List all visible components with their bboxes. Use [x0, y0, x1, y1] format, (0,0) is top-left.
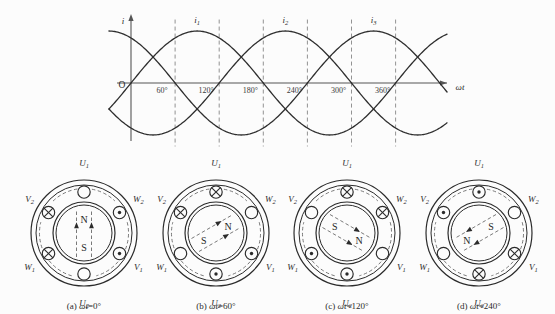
rotor-pole-north-label: N [356, 235, 363, 246]
slot-U1 [341, 186, 353, 198]
stator-inner-shell-circle [299, 185, 395, 281]
field-direction-arrow-0 [215, 219, 223, 226]
slot-label-V1: V1 [134, 262, 143, 273]
slot-W2 [508, 206, 520, 218]
series-label-i2: i2 [282, 15, 289, 26]
diagram-caption-d: (d) ωt=240° [457, 301, 501, 311]
field-direction-arrow-1 [89, 222, 94, 228]
slot-label-U1: U1 [474, 158, 484, 169]
rotor-pole-south-label: S [488, 221, 494, 232]
motor-diagram-d: U1W2V1U2W1V2NS(d) ωt=240° [419, 158, 539, 311]
slot-label-W1: W1 [419, 262, 430, 273]
field-direction-arrow-1 [465, 227, 473, 234]
slot-label-V1: V1 [529, 262, 538, 273]
motor-diagram-a: U1W2V1U2W1V2NS(a) ωt=0° [24, 158, 144, 311]
slot-U1 [78, 186, 90, 198]
slot-V1 [376, 247, 388, 259]
slot-label-W2: W2 [133, 194, 145, 205]
diagram-caption-b: (b) ωt=60° [196, 301, 236, 311]
rotor-circle [319, 205, 375, 261]
stator-bore-circle [316, 202, 378, 264]
field-direction-arrow-0 [354, 227, 362, 234]
rotor-pole-south-label: S [332, 221, 338, 232]
slot-U2 [78, 268, 90, 280]
origin-label: O [119, 80, 126, 90]
slot-V2 [305, 206, 317, 218]
slot-W1 [42, 247, 54, 259]
current-out-dot-icon [477, 190, 480, 193]
current-out-dot-icon [214, 272, 217, 275]
field-direction-arrow-1 [223, 232, 231, 239]
slot-label-V2: V2 [288, 194, 298, 205]
rotor-pole-north-label: N [80, 214, 87, 225]
slot-V1 [245, 247, 257, 259]
current-out-dot-icon [310, 252, 313, 255]
slot-U2 [210, 268, 222, 280]
stator-bore-circle [53, 202, 115, 264]
motor-diagram-c: U1W2V1U2W1V2NS(c) ωt=120° [287, 158, 407, 311]
motor-diagram-b: U1W2V1U2W1V2NS(b) ωt=60° [156, 158, 276, 311]
current-out-dot-icon [118, 252, 121, 255]
slot-V2 [174, 206, 186, 218]
slot-label-V1: V1 [397, 262, 406, 273]
xtick-label-240°: 240° [287, 86, 302, 95]
xtick-label-300°: 300° [331, 86, 346, 95]
y-axis-label: i [122, 16, 125, 26]
slot-label-V2: V2 [420, 194, 430, 205]
slot-label-U1: U1 [342, 158, 352, 169]
figure-root: iOωt60°120°180°240°300°360°i1i2i3U1W2V1U… [0, 0, 555, 314]
slot-W1 [174, 247, 186, 259]
rotor-pole-south-label: S [201, 235, 207, 246]
rotor-circle [188, 205, 244, 261]
slot-W1 [437, 247, 449, 259]
slot-label-V2: V2 [157, 194, 167, 205]
xtick-label-360°: 360° [375, 86, 390, 95]
slot-label-W1: W1 [24, 262, 35, 273]
current-waveform-chart: iOωt60°120°180°240°300°360°i1i2i3 [109, 14, 465, 146]
xtick-label-120°: 120° [199, 86, 214, 95]
xtick-label-60°: 60° [156, 86, 167, 95]
y-axis-arrow [128, 14, 133, 21]
slot-label-W1: W1 [287, 262, 298, 273]
slot-W2 [245, 206, 257, 218]
slot-W1 [305, 247, 317, 259]
slot-label-U1: U1 [79, 158, 89, 169]
current-out-dot-icon [442, 211, 445, 214]
slot-conductor-circle [305, 206, 317, 218]
slot-W2 [376, 206, 388, 218]
current-out-dot-icon [345, 272, 348, 275]
field-direction-arrow-1 [346, 240, 354, 247]
stator-bore-circle [185, 202, 247, 264]
field-direction-arrow-0 [472, 240, 480, 247]
rotor-circle [451, 205, 507, 261]
diagram-caption-c: (c) ωt=120° [325, 301, 369, 311]
slot-label-W1: W1 [156, 262, 167, 273]
stator-inner-shell-circle [431, 185, 527, 281]
slot-U2 [473, 268, 485, 280]
series-label-i1: i1 [194, 15, 200, 26]
slot-conductor-circle [245, 206, 257, 218]
slot-label-U1: U1 [211, 158, 221, 169]
slot-conductor-circle [78, 268, 90, 280]
slot-label-W2: W2 [265, 194, 277, 205]
slot-label-W2: W2 [528, 194, 540, 205]
slot-conductor-circle [508, 206, 520, 218]
slot-label-W2: W2 [396, 194, 408, 205]
stator-inner-shell-circle [36, 185, 132, 281]
stator-bore-circle [448, 202, 510, 264]
slot-U1 [210, 186, 222, 198]
diagram-caption-a: (a) ωt=0° [67, 301, 102, 311]
slot-V1 [113, 247, 125, 259]
slot-conductor-circle [174, 247, 186, 259]
rotor-pole-south-label: S [81, 242, 87, 253]
slot-V2 [437, 206, 449, 218]
slot-U2 [341, 268, 353, 280]
slot-U1 [473, 186, 485, 198]
slot-conductor-circle [78, 186, 90, 198]
slot-conductor-circle [376, 247, 388, 259]
slot-W2 [113, 206, 125, 218]
series-label-i3: i3 [371, 15, 378, 26]
stator-inner-shell-circle [168, 185, 264, 281]
current-out-dot-icon [118, 211, 121, 214]
rotor-pole-north-label: N [463, 235, 470, 246]
